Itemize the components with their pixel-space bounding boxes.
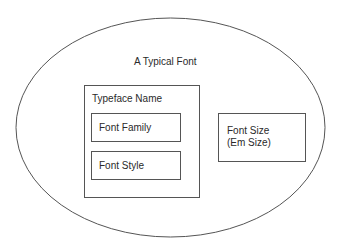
font-size-box: Font Size (Em Size) (218, 113, 306, 162)
outer-label: A Typical Font (134, 56, 197, 68)
font-size-label: Font Size (227, 125, 269, 137)
em-size-label: (Em Size) (227, 137, 271, 149)
typeface-label: Typeface Name (92, 93, 162, 105)
font-family-box: Font Family (91, 113, 181, 142)
font-style-label: Font Style (99, 160, 144, 172)
font-style-box: Font Style (91, 151, 181, 180)
font-family-label: Font Family (99, 122, 151, 134)
